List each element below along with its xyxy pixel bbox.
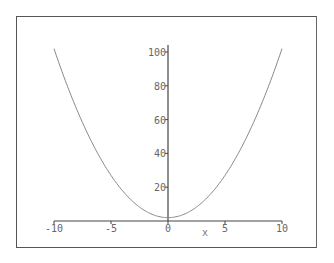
y-tick-label: 40 <box>154 148 166 159</box>
x-tick-label: -5 <box>105 223 117 234</box>
y-tick-label: 80 <box>154 81 166 92</box>
x-tick-label: 0 <box>165 223 171 234</box>
y-tick-label: 60 <box>154 115 166 126</box>
tick-labels: -10-5051020406080100 <box>45 47 288 234</box>
y-tick-label: 20 <box>154 182 166 193</box>
x-tick-label: 10 <box>276 223 288 234</box>
x-axis-label: x <box>202 227 208 238</box>
plot-canvas: -10-5051020406080100 x <box>0 0 334 263</box>
axes <box>54 45 282 221</box>
y-tick-label: 100 <box>148 47 166 58</box>
x-tick-label: 5 <box>222 223 228 234</box>
x-tick-label: -10 <box>45 223 63 234</box>
